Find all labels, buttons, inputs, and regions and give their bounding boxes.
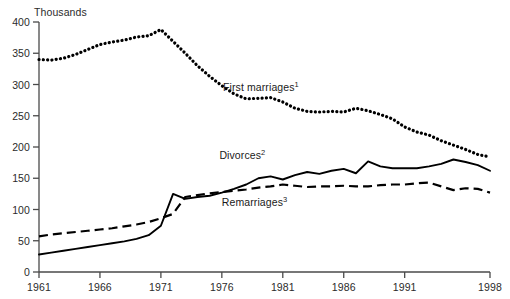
x-axis-tick-label: 1991 bbox=[393, 281, 417, 293]
x-axis-tick-label: 1976 bbox=[210, 281, 234, 293]
line-chart: Thousands 050100150200250300350400 19611… bbox=[0, 0, 510, 299]
series-label-text: Divorces bbox=[219, 149, 261, 161]
series-label-first-marriages: First marriages1 bbox=[223, 81, 299, 93]
y-axis-tick-label: 100 bbox=[0, 204, 30, 216]
series-label-text: First marriages bbox=[223, 81, 295, 93]
x-axis-tick-label: 1966 bbox=[88, 281, 112, 293]
y-axis-tick-label: 150 bbox=[0, 172, 30, 184]
y-axis-tick-label: 50 bbox=[0, 235, 30, 247]
series-label-remarriages: Remarriages3 bbox=[222, 196, 288, 208]
y-axis-tick-label: 350 bbox=[0, 47, 30, 59]
y-axis-tick-label: 400 bbox=[0, 16, 30, 28]
y-axis-tick-label: 0 bbox=[0, 266, 30, 278]
x-axis-tick-label: 1998 bbox=[478, 281, 502, 293]
x-axis-tick-label: 1986 bbox=[332, 281, 356, 293]
series-label-text: Remarriages bbox=[222, 196, 283, 208]
series-line-remarriages bbox=[39, 183, 490, 237]
y-axis-tick-label: 250 bbox=[0, 110, 30, 122]
y-axis-tick-label: 300 bbox=[0, 79, 30, 91]
data-series-group bbox=[39, 30, 490, 255]
series-label-divorces: Divorces2 bbox=[219, 149, 265, 161]
series-line-first-marriages bbox=[39, 30, 490, 158]
x-axis-tick-label: 1961 bbox=[27, 281, 51, 293]
series-footnote-marker: 3 bbox=[283, 195, 287, 204]
y-axis-unit-label: Thousands bbox=[34, 6, 87, 18]
y-axis-tick-label: 200 bbox=[0, 141, 30, 153]
series-footnote-marker: 2 bbox=[261, 148, 265, 157]
series-footnote-marker: 1 bbox=[295, 79, 299, 88]
x-axis-tick-label: 1971 bbox=[149, 281, 173, 293]
x-axis-tick-label: 1981 bbox=[271, 281, 295, 293]
x-axis-ticks bbox=[39, 272, 490, 278]
